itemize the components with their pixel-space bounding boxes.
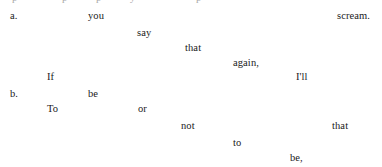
word-to-1: To (47, 103, 58, 114)
example-label-a: a. (10, 10, 17, 21)
word-that-b: that (332, 120, 348, 131)
word-again: again, (233, 57, 259, 68)
word-not: not (181, 120, 195, 131)
word-scream: scream. (337, 10, 370, 21)
word-or: or (138, 103, 147, 114)
word-be-2: be, (290, 152, 303, 163)
word-to-2: to (233, 137, 241, 148)
document-page: pppyp a. you say that again, If I'll scr… (0, 0, 382, 167)
word-ill: I'll (296, 71, 308, 82)
example-label-b: b. (10, 88, 18, 99)
word-you: you (88, 10, 104, 21)
word-say: say (137, 27, 151, 38)
clipped-previous-line: pppyp (0, 0, 382, 4)
word-be: be (88, 88, 98, 99)
word-that-a: that (185, 42, 201, 53)
word-if: If (47, 71, 54, 82)
